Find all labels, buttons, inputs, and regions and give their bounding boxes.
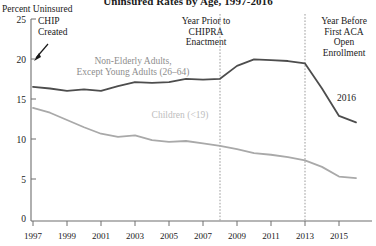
reference-lines — [220, 14, 305, 221]
plot-area — [0, 0, 376, 246]
x-axis-ticks — [33, 221, 339, 226]
uninsured-rates-chart: Uninsured Rates by Age, 1997-2016 Percen… — [0, 0, 376, 246]
series-line-adults — [33, 59, 356, 122]
chip-created-arrow — [34, 44, 48, 61]
series-line-children — [33, 108, 356, 178]
axes — [31, 19, 372, 226]
y-axis-ticks — [31, 19, 36, 179]
